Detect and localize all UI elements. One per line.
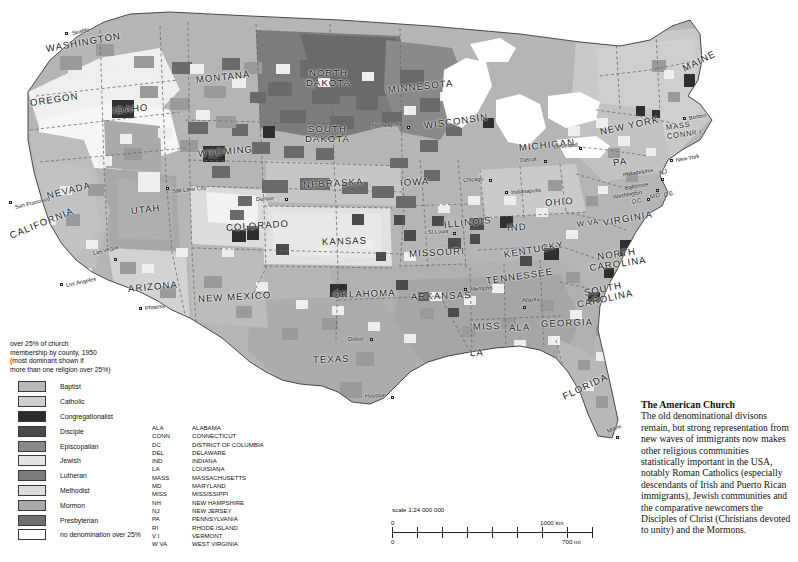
city-marker [370, 338, 373, 341]
caption-body: The old denominational divisons remain, … [641, 410, 793, 535]
city-label-st-louis: St Louis [428, 228, 449, 235]
scale-tick [517, 527, 518, 538]
abbreviation-row: CONNCONNECTICUT [152, 432, 264, 440]
legend-header-line: membership by county, 1950 [10, 349, 150, 358]
city-marker [139, 307, 142, 310]
abbreviation-code: ALA [152, 424, 192, 432]
legend-swatch [18, 381, 46, 392]
city-marker [285, 198, 288, 201]
city-marker [661, 178, 664, 181]
legend-swatch [18, 485, 46, 496]
legend-item-congregationalist[interactable]: Congregationalist [10, 410, 195, 423]
abbreviation-name: MASSACHUSETTS [192, 474, 264, 482]
state-label-georgia: GEORGIA [541, 316, 593, 329]
abbreviation-code: DC [152, 441, 192, 449]
city-marker [60, 283, 63, 286]
state-label-la: LA [470, 347, 484, 358]
scale-title: scale 1:24 000 000 [392, 506, 612, 513]
legend-swatch [18, 529, 46, 540]
legend-header-line: over 25% of church [10, 340, 150, 349]
state-label-line: DAKOTA [306, 78, 351, 88]
state-label-pa: PA [612, 155, 628, 168]
city-marker [453, 232, 456, 235]
abbreviation-name: LOUISIANA [192, 465, 264, 473]
city-marker [464, 288, 467, 291]
scale-zero-mi: 0 [391, 538, 394, 545]
scale-tick [542, 527, 543, 538]
abbreviation-row: MDMARYLAND [152, 482, 264, 490]
state-label-south-dakota: SOUTHDAKOTA [305, 124, 350, 144]
abbreviation-name: MARYLAND [192, 482, 264, 490]
abbreviation-code: W VA [152, 540, 192, 548]
state-label-miss: MISS [473, 320, 501, 332]
legend-item-label: Mormon [60, 502, 85, 509]
city-marker [579, 147, 582, 150]
abbreviation-row: NJNEW JERSEY [152, 507, 264, 515]
legend-header: over 25% of churchmembership by county, … [10, 340, 150, 374]
abbreviation-row: MASSMASSACHUSETTS [152, 474, 264, 482]
scale-tick [467, 527, 468, 538]
city-marker [505, 191, 508, 194]
state-label-arkansas: ARKANSAS [411, 289, 472, 302]
city-marker [9, 201, 12, 204]
abbreviation-code: MD [152, 482, 192, 490]
state-label-r-i: R I [692, 128, 702, 136]
legend-header-line: (most dominant shown if [10, 357, 150, 366]
legend-item-label: Congregationalist [60, 413, 113, 420]
abbreviation-row: NHNEW HAMPSHIRE [152, 499, 264, 507]
legend-item-label: Catholic [60, 398, 85, 405]
legend-item-label: Jewish [60, 457, 81, 464]
caption-block: The American Church The old denomination… [641, 399, 793, 536]
legend-swatch [18, 470, 46, 481]
scale-max-mi: 700 mi [562, 538, 581, 545]
scale-bar-graphic: 0 1000 km 0 700 mi [392, 520, 612, 546]
abbreviation-code: NH [152, 499, 192, 507]
city-marker [616, 436, 619, 439]
legend-item-baptist[interactable]: Baptist [10, 380, 195, 393]
scale-bar: scale 1:24 000 000 0 1000 km 0 700 mi [392, 506, 612, 546]
map-page: WASHINGTONOREGONIDAHOMONTANAWYOMINGNORTH… [0, 0, 798, 562]
legend-swatch [18, 396, 46, 407]
abbreviation-code: CONN [152, 432, 192, 440]
abbreviation-row: DELDELAWARE [152, 449, 264, 457]
city-label-denver: Denver [256, 195, 274, 202]
abbreviation-row: DCDISTRICT OF COLUMBIA [152, 441, 264, 449]
state-label-ohio: OHIO [545, 195, 574, 208]
city-marker [670, 159, 673, 162]
abbreviation-row: RIRHODE ISLAND [152, 524, 264, 532]
abbreviation-code: RI [152, 524, 192, 532]
state-label-nj: NJ [658, 168, 668, 176]
abbreviation-name: NEW JERSEY [192, 507, 264, 515]
abbreviation-name: VERMONT [192, 532, 264, 540]
legend-item-label: Baptist [60, 383, 81, 390]
state-label-oklahoma: OKLAHOMA [333, 287, 396, 300]
state-label-north-dakota: NORTHDAKOTA [306, 68, 351, 88]
abbreviation-code: LA [152, 465, 192, 473]
state-label-texas: TEXAS [313, 353, 350, 365]
scale-tick [392, 527, 393, 538]
abbreviation-name: PENNSYLVANIA [192, 515, 264, 523]
abbreviation-name: MISSISSIPPI [192, 490, 264, 498]
city-marker [523, 306, 526, 309]
city-marker [647, 198, 650, 201]
scale-tick [567, 527, 568, 538]
city-label-houston: Houston [365, 392, 386, 399]
legend-item-label: Lutheran [60, 472, 87, 479]
legend-item-catholic[interactable]: Catholic [10, 395, 195, 408]
scale-tick [417, 527, 418, 538]
state-label-ala: ALA [509, 321, 531, 333]
scale-tick [592, 527, 593, 538]
abbreviation-name: DISTRICT OF COLUMBIA [192, 441, 264, 449]
legend-swatch [18, 411, 46, 422]
city-marker [65, 32, 68, 35]
abbreviation-name: CONNECTICUT [192, 432, 264, 440]
abbreviation-name: ALABAMA [192, 424, 264, 432]
state-label-kansas: KANSAS [322, 234, 368, 247]
city-label-dallas: Dallas [348, 335, 364, 342]
legend-swatch [18, 500, 46, 511]
legend-item-label: Episcopalian [60, 443, 99, 450]
legend-item-label: no denomination over 25% [60, 531, 141, 538]
city-label-atlanta: Atlanta [522, 296, 540, 303]
abbreviation-code: MASS [152, 474, 192, 482]
abbreviation-name: NEW HAMPSHIRE [192, 499, 264, 507]
